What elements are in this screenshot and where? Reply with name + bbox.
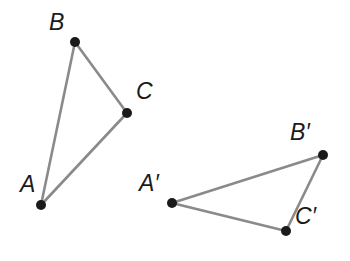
edge-Ap-Bp bbox=[172, 155, 323, 203]
vertex-point-Bp bbox=[318, 150, 328, 160]
vertex-point-Ap bbox=[167, 198, 177, 208]
labels-layer: ABCA′B′C′ bbox=[18, 9, 317, 229]
edges-layer bbox=[41, 42, 323, 231]
vertex-point-A bbox=[36, 200, 46, 210]
edge-Cp-Ap bbox=[172, 203, 286, 231]
vertex-label-Cp: C′ bbox=[295, 203, 317, 229]
edge-A-B bbox=[41, 42, 75, 205]
vertex-label-B: B bbox=[49, 9, 65, 35]
vertex-point-C bbox=[122, 108, 132, 118]
vertex-label-A: A bbox=[18, 171, 36, 197]
vertex-point-Cp bbox=[281, 226, 291, 236]
vertex-label-Ap: A′ bbox=[137, 170, 160, 196]
vertex-label-C: C bbox=[136, 78, 153, 104]
edge-C-A bbox=[41, 113, 127, 205]
diagram-canvas: ABCA′B′C′ bbox=[0, 0, 350, 261]
vertex-label-Bp: B′ bbox=[290, 119, 311, 145]
geometry-diagram: ABCA′B′C′ bbox=[0, 0, 350, 261]
edge-B-C bbox=[75, 42, 127, 113]
vertex-point-B bbox=[70, 37, 80, 47]
